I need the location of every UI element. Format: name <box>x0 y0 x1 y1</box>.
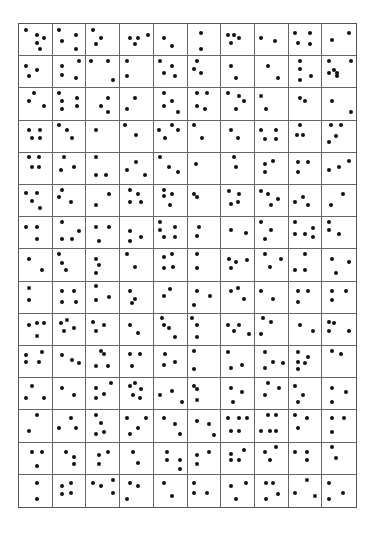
dot-mark <box>57 252 61 256</box>
grid-cell <box>86 88 120 120</box>
dot-mark <box>94 42 98 46</box>
dot-mark <box>102 392 106 396</box>
grid-cell <box>19 475 53 507</box>
grid-cell <box>154 88 188 120</box>
dot-mark <box>38 206 42 210</box>
dot-mark <box>327 497 331 501</box>
dot-mark <box>30 199 34 203</box>
grid-cell <box>221 24 255 56</box>
dot-mark <box>277 386 281 390</box>
dot-mark <box>298 96 302 100</box>
dot-mark <box>296 289 300 293</box>
dot-mark <box>107 225 111 229</box>
dot-mark <box>236 286 240 290</box>
grid-cell <box>120 153 154 185</box>
dot-mark <box>264 107 268 111</box>
dot-mark <box>342 416 346 420</box>
dot-mark <box>27 128 31 132</box>
dot-mark <box>125 59 129 63</box>
dot-mark <box>229 128 233 132</box>
dot-mark <box>229 429 233 433</box>
dot-mark <box>70 237 74 241</box>
dot-mark <box>303 252 307 256</box>
dot-mark <box>136 36 140 40</box>
dot-mark <box>199 47 203 51</box>
grid-cell <box>188 410 222 442</box>
dot-mark <box>24 225 28 229</box>
dot-mark <box>60 289 64 293</box>
dot-mark <box>263 170 267 174</box>
dot-mark <box>133 265 137 269</box>
dot-mark <box>305 450 309 454</box>
grid-cell <box>19 88 53 120</box>
grid-cell <box>86 153 120 185</box>
dot-mark <box>237 94 241 98</box>
dot-mark <box>195 335 199 339</box>
dot-mark <box>234 76 238 80</box>
dot-mark <box>330 386 334 390</box>
dot-mark <box>274 429 278 433</box>
dot-mark <box>276 76 280 80</box>
grid-cell <box>53 88 87 120</box>
dot-mark <box>303 361 307 365</box>
dot-mark <box>99 36 103 40</box>
dot-mark <box>195 323 199 327</box>
grid-cell <box>19 217 53 249</box>
dot-mark <box>330 445 334 449</box>
dot-mark <box>125 252 129 256</box>
dot-mark <box>158 228 162 232</box>
dot-mark <box>311 226 315 230</box>
grid-cell <box>188 121 222 153</box>
grid-cell <box>120 378 154 410</box>
dot-mark <box>259 128 263 132</box>
grid-cell <box>53 475 87 507</box>
grid-cell <box>289 88 323 120</box>
grid-cell <box>221 378 255 410</box>
dot-mark <box>60 261 64 265</box>
dot-mark <box>128 384 132 388</box>
dot-mark <box>62 155 66 159</box>
dot-mark <box>240 363 244 367</box>
dot-mark <box>229 41 233 45</box>
dot-mark <box>337 165 341 169</box>
dot-mark <box>229 202 233 206</box>
dot-mark <box>234 260 238 264</box>
dot-mark <box>263 393 267 397</box>
dot-mark <box>42 396 46 400</box>
dot-mark <box>30 450 34 454</box>
dot-mark <box>163 136 167 140</box>
dot-mark <box>296 367 300 371</box>
dot-mark <box>339 123 343 127</box>
dot-mark <box>91 28 95 32</box>
grid-cell <box>255 24 289 56</box>
grid-cell <box>322 249 356 281</box>
dot-mark <box>64 268 68 272</box>
dot-mark <box>170 123 174 127</box>
dot-mark <box>263 252 267 256</box>
dot-mark <box>341 192 345 196</box>
dot-mark <box>60 386 64 390</box>
dot-mark <box>60 492 64 496</box>
dot-mark <box>60 64 64 68</box>
grid-cell <box>86 443 120 475</box>
dot-mark <box>226 91 230 95</box>
grid-cell <box>120 249 154 281</box>
dot-mark <box>180 400 184 404</box>
dot-mark <box>158 393 162 397</box>
dot-mark <box>178 432 182 436</box>
dot-mark <box>35 497 39 501</box>
dot-mark <box>167 326 171 330</box>
dot-mark <box>192 349 196 353</box>
dot-mark <box>259 332 263 336</box>
grid-cell <box>221 443 255 475</box>
grid-cell <box>154 410 188 442</box>
dot-mark <box>130 301 134 305</box>
dot-mark <box>165 450 169 454</box>
dot-mark <box>237 192 241 196</box>
dot-mark <box>334 134 338 138</box>
dot-mark <box>293 268 297 272</box>
dot-mark <box>60 99 64 103</box>
dot-mark <box>128 323 132 327</box>
dot-mark <box>231 400 235 404</box>
dot-mark <box>349 110 353 114</box>
